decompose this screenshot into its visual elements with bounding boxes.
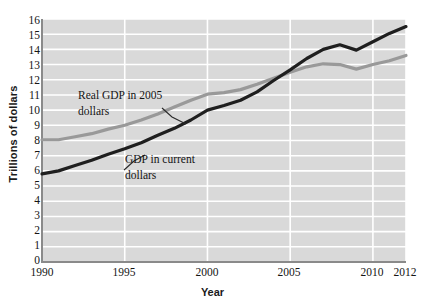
y-tick-label-7: 7 — [14, 149, 40, 161]
x-tick-label-1990: 1990 — [12, 266, 72, 278]
y-tick-label-14: 14 — [14, 44, 40, 56]
x-tick-label-1995: 1995 — [94, 266, 154, 278]
y-tick-label-1: 1 — [14, 239, 40, 251]
x-tick-label-2012: 2012 — [375, 266, 425, 278]
x-axis-title: Year — [0, 286, 425, 298]
y-tick-label-9: 9 — [14, 119, 40, 131]
annotation-real-gdp-line2: dollars — [78, 104, 162, 120]
y-tick-label-5: 5 — [14, 179, 40, 191]
plot-area — [0, 0, 425, 307]
y-tick-label-3: 3 — [14, 209, 40, 221]
annotation-current-gdp: GDP in current dollars — [125, 152, 195, 183]
y-tick-label-4: 4 — [14, 194, 40, 206]
x-tick-label-2000: 2000 — [177, 266, 237, 278]
x-tick-label-2005: 2005 — [259, 266, 319, 278]
gdp-line-chart: Trillions of dollars Year 16 15 14 13 12… — [0, 0, 425, 307]
y-tick-label-10: 10 — [14, 104, 40, 116]
y-tick-label-16: 16 — [14, 14, 40, 26]
annotation-real-gdp: Real GDP in 2005 dollars — [78, 88, 162, 119]
y-tick-label-12: 12 — [14, 74, 40, 86]
y-tick-label-6: 6 — [14, 164, 40, 176]
y-tick-label-2: 2 — [14, 224, 40, 236]
y-tick-label-11: 11 — [14, 89, 40, 101]
annotation-current-gdp-line1: GDP in current — [125, 152, 195, 168]
y-tick-label-13: 13 — [14, 59, 40, 71]
y-tick-label-0: 0 — [14, 254, 40, 266]
y-tick-label-15: 15 — [14, 29, 40, 41]
annotation-current-gdp-line2: dollars — [125, 168, 195, 184]
annotation-real-gdp-line1: Real GDP in 2005 — [78, 88, 162, 104]
y-tick-label-8: 8 — [14, 134, 40, 146]
